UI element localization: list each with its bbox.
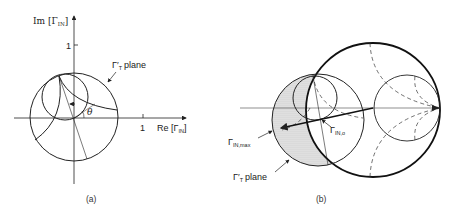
plane-pointer-b — [275, 160, 289, 172]
figure-canvas: Im [ΓIN] 1 1 Re [ΓIN] Γ′Tplane θ (a) — [0, 0, 455, 218]
dashed-arc-lower-outer — [370, 108, 440, 177]
gamma-in-max-label: ΓIN,max — [228, 137, 251, 148]
panel-a: Im [ΓIN] 1 1 Re [ΓIN] Γ′Tplane θ (a) — [14, 16, 186, 204]
smith-chart-circle — [306, 43, 440, 177]
gamma-in-max-pointer — [258, 131, 272, 138]
theta-label: θ — [87, 107, 93, 117]
gamma-in-o-label: ΓIN,o — [330, 125, 345, 136]
arc-left — [35, 76, 60, 140]
plane-label: Γ′Tplane — [112, 60, 146, 71]
x-tick-label: 1 — [140, 123, 145, 133]
x-axis-label: Re [ΓIN] — [157, 123, 186, 134]
y-tick-label: 1 — [66, 41, 71, 51]
shaded-region — [260, 43, 440, 180]
gamma-in-o-pointer — [322, 120, 331, 127]
plane-pointer — [108, 72, 116, 82]
radial-line — [59, 76, 87, 159]
caption-b: (b) — [316, 194, 327, 204]
plane-label-b: Γ′Tplane — [233, 172, 267, 183]
panel-b: ΓIN,max ΓIN,o Γ′Tplane (b) — [228, 43, 440, 204]
y-axis-label: Im [ΓIN] — [33, 16, 68, 27]
caption-a: (a) — [86, 194, 97, 204]
right-arrow-tip — [432, 105, 440, 111]
